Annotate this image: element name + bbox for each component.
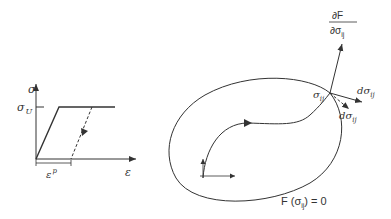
yield-function-label: F (σij) = 0 [281, 195, 327, 210]
normal-vector [330, 44, 342, 93]
normal-denominator: ∂σij [330, 25, 345, 39]
y-axis-label: σ [28, 83, 36, 96]
stress-strain-plot: σ ε σU εp [17, 83, 136, 180]
plasticity-diagram: σ ε σU εp σij ∂F ∂σij dσij dσij F (σij) … [0, 0, 391, 219]
yield-stress-label: σU [17, 101, 33, 116]
stress-point-label: σij [313, 89, 325, 103]
unloading-arrow-icon [81, 128, 88, 136]
stress-path-arrow-icon [244, 119, 252, 127]
x-axis-label: ε [125, 166, 131, 179]
unloading-path [71, 107, 92, 159]
yield-surface-diagram: σij ∂F ∂σij dσij dσij F (σij) = 0 [169, 10, 376, 210]
increment-label: dσij [357, 85, 375, 99]
stress-path [203, 93, 330, 178]
elastic-plastic-curve [36, 107, 115, 159]
plastic-strain-label: εp [46, 167, 57, 180]
normal-numerator: ∂F [332, 10, 343, 21]
